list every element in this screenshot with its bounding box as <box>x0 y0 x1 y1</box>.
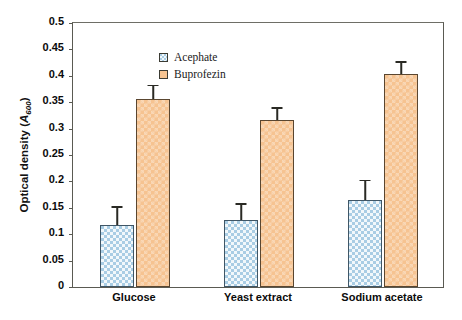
y-tick-label: 0.1 <box>4 226 64 238</box>
bar-buprofezin-glucose <box>136 99 170 287</box>
bar-slot <box>224 23 258 287</box>
y-tick-label: 0.2 <box>4 173 64 185</box>
y-tick-label: 0.25 <box>4 147 64 159</box>
bars-layer <box>73 23 443 287</box>
bar-acephate-yeast-extract <box>224 220 258 287</box>
legend-label-acephate: Acephate <box>174 51 217 63</box>
bar-group-sodium-acetate <box>321 23 445 287</box>
error-bar-cap <box>148 85 159 87</box>
bar-slot <box>100 23 134 287</box>
legend-entry-acephate: Acephate <box>159 51 226 63</box>
error-bar-cap <box>112 206 123 208</box>
legend-entry-buprofezin: Buprofezin <box>159 68 226 80</box>
plot-area: 00.050.10.150.20.250.30.350.40.450.5 Ace… <box>72 22 444 288</box>
y-tick-label: 0.05 <box>4 253 64 265</box>
y-tick-label: 0.15 <box>4 200 64 212</box>
bar-acephate-sodium-acetate <box>348 200 382 287</box>
legend: Acephate Buprofezin <box>159 51 226 80</box>
error-bar-cap <box>236 203 247 205</box>
bar-acephate-glucose <box>100 225 134 287</box>
x-axis-label-glucose: Glucose <box>72 291 196 311</box>
error-bar <box>364 181 366 199</box>
legend-swatch-acephate <box>159 53 168 62</box>
y-tick-label: 0.3 <box>4 121 64 133</box>
bar-chart-figure: Optical density (A600) 00.050.10.150.20.… <box>0 0 462 320</box>
error-bar-cap <box>360 180 371 182</box>
y-tick-mark <box>69 287 73 288</box>
y-tick-label: 0.45 <box>4 41 64 53</box>
x-axis-label-sodium-acetate: Sodium acetate <box>320 291 444 311</box>
error-bar <box>240 205 242 221</box>
error-bar <box>400 63 402 74</box>
legend-swatch-buprofezin <box>159 70 168 79</box>
y-tick-label: 0 <box>4 279 64 291</box>
y-tick-label: 0.5 <box>4 15 64 27</box>
y-tick-label: 0.35 <box>4 94 64 106</box>
error-bar <box>276 109 278 121</box>
error-bar-cap <box>272 107 283 109</box>
error-bar <box>152 86 154 98</box>
x-axis-label-yeast-extract: Yeast extract <box>196 291 320 311</box>
bar-slot <box>384 23 418 287</box>
error-bar <box>116 208 118 225</box>
bar-slot <box>348 23 382 287</box>
bar-slot <box>260 23 294 287</box>
x-axis-labels: GlucoseYeast extractSodium acetate <box>72 291 444 311</box>
bar-buprofezin-yeast-extract <box>260 120 294 287</box>
legend-label-buprofezin: Buprofezin <box>174 68 226 80</box>
y-tick-label: 0.4 <box>4 68 64 80</box>
bar-buprofezin-sodium-acetate <box>384 74 418 287</box>
error-bar-cap <box>396 61 407 63</box>
